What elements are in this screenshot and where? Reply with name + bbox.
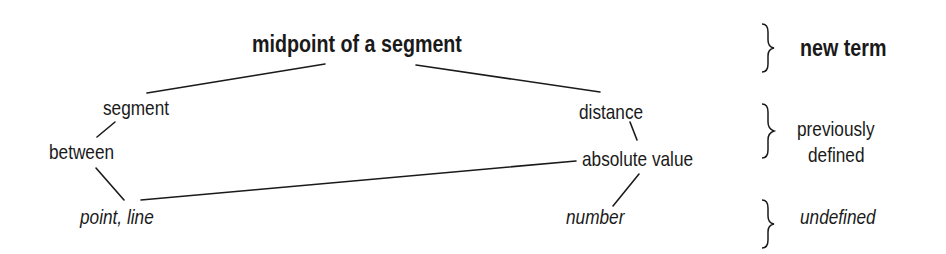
node-between: between	[49, 141, 114, 162]
hierarchy-diagram: midpoint of a segment segment distance b…	[0, 0, 946, 254]
node-segment: segment	[103, 97, 169, 118]
braces	[762, 24, 774, 248]
edge-midpoint-segment	[147, 64, 325, 93]
edge-absvalue-number	[613, 174, 639, 206]
edge-absvalue-pointline	[141, 161, 576, 200]
brace-undefined	[762, 200, 774, 248]
edge-segment-between	[97, 122, 115, 137]
edge-between-pointline	[96, 168, 124, 200]
node-distance: distance	[579, 101, 643, 122]
category-new-term: new term	[800, 36, 886, 60]
category-previously-line2: defined	[808, 144, 865, 165]
category-previously-line1: previously	[797, 118, 875, 139]
new-term-label: midpoint of a segment	[252, 32, 462, 56]
brace-previously-defined	[762, 104, 774, 158]
category-undefined: undefined	[800, 206, 876, 227]
node-point-line: point, line	[80, 206, 154, 227]
edge-distance-absvalue	[630, 122, 637, 140]
brace-new-term	[762, 24, 774, 72]
node-number: number	[566, 206, 624, 227]
node-absolute-value: absolute value	[582, 148, 693, 169]
edge-midpoint-distance	[416, 65, 600, 92]
